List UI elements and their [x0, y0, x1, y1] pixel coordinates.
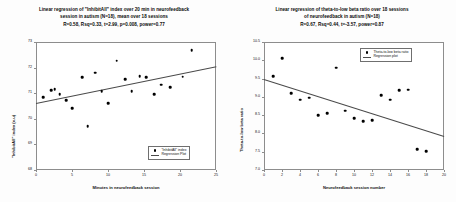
data-point	[308, 96, 311, 99]
data-point	[169, 86, 172, 89]
x-axis-title-left: Minutes in neurofeedback session	[93, 186, 160, 190]
y-axis-tick-label: 72	[28, 66, 32, 70]
chart-title-right: Linear regression of theta-to-low beta r…	[228, 6, 456, 28]
data-point	[416, 148, 419, 151]
y-axis-tick	[34, 93, 36, 94]
x-axis-tick-label: 4	[299, 174, 301, 178]
y-axis-tick	[262, 115, 264, 116]
y-axis-tick-label: 8.5	[255, 113, 260, 117]
y-axis-tick-label: 68	[28, 168, 32, 172]
y-axis-tick-label: 70	[28, 117, 32, 121]
data-point	[398, 89, 401, 92]
data-point	[407, 88, 410, 91]
x-axis-tick-label: 6	[317, 174, 319, 178]
data-point	[100, 90, 103, 93]
data-point	[65, 99, 68, 102]
data-point	[94, 71, 97, 74]
data-point	[335, 66, 338, 69]
chart-title-left-line-1: Linear regression of "InhibitAll" index …	[2, 6, 226, 13]
data-point	[326, 112, 329, 115]
y-axis-tick-label: 10.5	[253, 40, 260, 44]
data-point	[50, 89, 53, 92]
y-axis-tick	[34, 119, 36, 120]
y-axis-tick-label: 7.0	[255, 168, 260, 172]
x-axis-tick-label: 8	[335, 174, 337, 178]
data-point	[145, 76, 148, 79]
y-axis-tick	[262, 42, 264, 43]
y-axis-tick-label: 9.5	[255, 77, 260, 81]
y-axis-tick	[34, 42, 36, 43]
data-point	[115, 59, 118, 62]
x-axis-tick-label: 10	[106, 174, 110, 178]
chart-title-left-line-2: session in autism (N=18), mean over 18 s…	[2, 13, 226, 20]
data-point	[71, 107, 74, 110]
x-axis-tick-label: 20	[178, 174, 182, 178]
data-point	[281, 57, 284, 60]
legend-item-fit-right: Regression plot	[363, 55, 408, 59]
data-point	[272, 75, 275, 78]
legend-marker-line-icon	[151, 155, 159, 156]
data-point	[317, 114, 320, 117]
legend-right: Theta-to-low beta ratio Regression plot	[360, 48, 412, 62]
plot-area-right: 7.07.58.08.59.09.510.010.502468101214161…	[264, 42, 444, 170]
y-axis-tick	[262, 60, 264, 61]
y-axis-tick	[34, 68, 36, 69]
data-point	[107, 102, 110, 105]
data-point	[389, 98, 392, 101]
chart-title-right-line-2: of neurofeedback in autism (N=18)	[230, 13, 454, 20]
x-axis-tick-label: 14	[388, 174, 392, 178]
legend-label-fit-right: Regression plot	[373, 55, 397, 59]
data-point	[299, 98, 302, 101]
data-point	[138, 75, 141, 78]
chart-title-left: Linear regression of "InhibitAll" index …	[0, 6, 228, 28]
x-axis-tick-label: 15	[142, 174, 146, 178]
y-axis-tick	[34, 144, 36, 145]
chart-title-right-line-3: R=0.67, Rsq=0.44, t=-3.57, power=0.87	[230, 21, 454, 28]
data-point	[160, 83, 163, 86]
legend-item-fit-left: Regression Plot	[151, 153, 186, 157]
data-point	[124, 78, 127, 81]
data-point	[58, 93, 61, 96]
chart-panel-left: Linear regression of "InhibitAll" index …	[0, 0, 228, 202]
legend-label-fit-left: Regression Plot	[161, 153, 186, 157]
x-axis-tick-label: 12	[370, 174, 374, 178]
x-axis-tick-label: 25	[214, 174, 218, 178]
data-point	[425, 150, 428, 153]
x-axis-tick-label: 10	[352, 174, 356, 178]
data-point	[190, 49, 193, 52]
x-axis-tick-label: 0	[263, 174, 265, 178]
legend-marker-dot-icon	[363, 51, 371, 53]
y-axis-tick-label: 8.0	[255, 132, 260, 136]
data-point	[87, 125, 90, 128]
chart-title-left-line-3: R=0.58, Rsq=0.33, t=2.99, p=0.008, power…	[2, 21, 226, 28]
data-point	[290, 92, 293, 95]
x-axis-tick-label: 5	[71, 174, 73, 178]
y-axis-title-right: Theta-to-low beta ratio	[240, 108, 244, 152]
y-axis-tick	[262, 97, 264, 98]
data-point	[380, 94, 383, 97]
y-axis-tick-label: 10.0	[253, 58, 260, 62]
x-axis-tick-label: 20	[442, 174, 446, 178]
x-axis-tick-label: 2	[281, 174, 283, 178]
data-point	[182, 76, 185, 79]
y-axis-tick-label: 73	[28, 40, 32, 44]
data-point	[53, 88, 56, 91]
legend-marker-dot-icon	[151, 149, 159, 151]
chart-panel-right: Linear regression of theta-to-low beta r…	[228, 0, 456, 202]
y-axis-tick-label: 9.0	[255, 95, 260, 99]
legend-left: "InhibitAll" index Regression Plot	[148, 146, 190, 160]
y-axis-tick-label: 71	[28, 91, 32, 95]
data-point	[153, 93, 156, 96]
data-point	[353, 117, 356, 120]
legend-marker-line-icon	[363, 57, 371, 58]
y-axis-tick-label: 69	[28, 143, 32, 147]
plot-frame-right	[264, 42, 444, 170]
data-point	[130, 90, 133, 93]
x-axis-tick-label: 18	[424, 174, 428, 178]
chart-title-right-line-1: Linear regression of theta-to-low beta r…	[230, 6, 454, 13]
x-axis-title-right: Neurofeedback session number	[323, 186, 385, 190]
x-axis-tick-label: 0	[35, 174, 37, 178]
y-axis-tick	[262, 152, 264, 153]
data-point	[371, 119, 374, 122]
y-axis-title-left: "InhibitAll" index (x.u)	[12, 115, 16, 158]
